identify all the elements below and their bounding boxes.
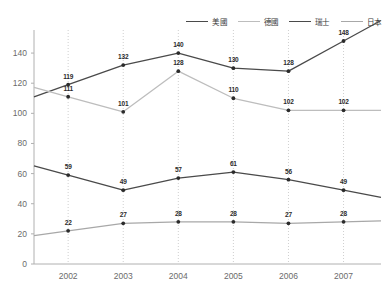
data-point-label: 101 <box>110 100 136 107</box>
data-point-label: 102 <box>275 98 301 105</box>
data-point-label: 28 <box>331 210 357 217</box>
line-chart: 美國德國瑞士日本 0204060801001201402002200320042… <box>0 0 389 292</box>
data-point-label: 28 <box>220 210 246 217</box>
y-axis-tick-label: 100 <box>1 108 27 118</box>
x-axis-tick-label: 2006 <box>268 271 308 281</box>
data-point-label: 57 <box>165 166 191 173</box>
data-point-marker[interactable] <box>342 188 346 192</box>
data-point-label: 56 <box>275 168 301 175</box>
data-point-label: 59 <box>55 163 81 170</box>
data-point-label: 111 <box>55 85 81 92</box>
data-point-marker[interactable] <box>66 95 70 99</box>
y-axis-tick-label: 40 <box>1 199 27 209</box>
data-point-label: 27 <box>110 211 136 218</box>
data-point-marker[interactable] <box>287 69 291 73</box>
data-point-label: 148 <box>331 29 357 36</box>
data-point-marker[interactable] <box>66 173 70 177</box>
data-point-marker[interactable] <box>121 110 125 114</box>
data-point-marker[interactable] <box>176 220 180 224</box>
data-point-marker[interactable] <box>66 229 70 233</box>
data-point-marker[interactable] <box>231 220 235 224</box>
data-point-label: 61 <box>220 160 246 167</box>
data-point-label: 110 <box>220 86 246 93</box>
series-line <box>34 71 381 112</box>
series-line <box>34 221 381 236</box>
data-point-label: 27 <box>275 211 301 218</box>
y-axis-tick-label: 80 <box>1 138 27 148</box>
x-axis-tick-label: 2005 <box>213 271 253 281</box>
data-point-marker[interactable] <box>121 188 125 192</box>
y-axis-tick-label: 120 <box>1 78 27 88</box>
data-point-label: 132 <box>110 53 136 60</box>
data-point-marker[interactable] <box>231 170 235 174</box>
data-point-marker[interactable] <box>342 108 346 112</box>
y-axis-tick-label: 20 <box>1 229 27 239</box>
x-axis-tick-label: 2002 <box>48 271 88 281</box>
data-point-label: 130 <box>220 56 246 63</box>
data-point-marker[interactable] <box>231 66 235 70</box>
data-point-label: 22 <box>55 219 81 226</box>
x-axis-tick-label: 2003 <box>103 271 143 281</box>
data-point-label: 49 <box>331 178 357 185</box>
data-point-marker[interactable] <box>342 220 346 224</box>
y-axis-tick-label: 140 <box>1 48 27 58</box>
data-point-label: 28 <box>165 210 191 217</box>
data-point-label: 102 <box>331 98 357 105</box>
data-point-marker[interactable] <box>176 69 180 73</box>
data-point-marker[interactable] <box>287 108 291 112</box>
x-axis-tick-label: 2007 <box>324 271 364 281</box>
data-point-label: 49 <box>110 178 136 185</box>
y-axis-tick-label: 60 <box>1 169 27 179</box>
data-point-marker[interactable] <box>121 221 125 225</box>
data-point-marker[interactable] <box>231 96 235 100</box>
series-line <box>34 166 381 198</box>
data-point-label: 119 <box>55 73 81 80</box>
data-point-label: 128 <box>165 59 191 66</box>
y-axis-tick-label: 0 <box>1 259 27 269</box>
plot-area <box>0 0 389 292</box>
data-point-label: 128 <box>275 59 301 66</box>
data-point-marker[interactable] <box>287 221 291 225</box>
data-point-marker[interactable] <box>342 39 346 43</box>
data-point-marker[interactable] <box>287 178 291 182</box>
data-point-marker[interactable] <box>176 51 180 55</box>
data-point-marker[interactable] <box>121 63 125 67</box>
data-point-marker[interactable] <box>176 176 180 180</box>
x-axis-tick-label: 2004 <box>158 271 198 281</box>
data-point-label: 140 <box>165 41 191 48</box>
